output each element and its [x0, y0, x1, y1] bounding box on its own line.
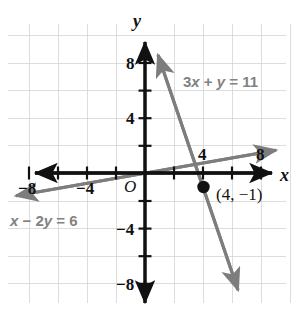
eq2-coefficient: 2: [35, 212, 43, 229]
eq1-rhs: 11: [242, 73, 258, 90]
grid-lines: [8, 24, 290, 303]
eq2-equals: =: [56, 212, 65, 229]
eq1-variable-y: y: [217, 73, 225, 90]
intersection-point: [197, 181, 209, 193]
x-tick-label-8: 8: [256, 146, 265, 163]
eq2-rhs: 6: [69, 212, 77, 229]
x-tick-label-neg4: −4: [76, 180, 94, 197]
x-axis: [29, 167, 272, 180]
y-tick-label-4: 4: [126, 110, 135, 127]
eq2-variable-x: x: [10, 212, 18, 229]
equation-label-x-minus-2y: x − 2y = 6: [10, 213, 78, 228]
eq1-operator: +: [204, 73, 213, 90]
graph-figure: y x O −8 −4 4 8 8 4 −4 −8 3x + y = 11 x …: [0, 0, 292, 315]
intersection-point-label: (4, −1): [216, 186, 262, 203]
y-tick-label-neg4: −4: [116, 221, 134, 238]
eq2-variable-y: y: [44, 212, 52, 229]
x-tick-label-neg8: −8: [18, 180, 36, 197]
y-tick-label-8: 8: [126, 55, 135, 72]
eq2-operator: −: [23, 212, 32, 229]
equation-label-3x-plus-y: 3x + y = 11: [183, 74, 258, 89]
eq1-variable-x: x: [191, 73, 199, 90]
eq1-equals: =: [229, 73, 238, 90]
x-tick-label-4: 4: [198, 146, 207, 163]
x-axis-label: x: [280, 166, 289, 184]
y-tick-label-neg8: −8: [116, 276, 134, 293]
coordinate-plane: [0, 0, 292, 315]
origin-label: O: [124, 178, 136, 195]
y-axis-label: y: [133, 12, 141, 30]
